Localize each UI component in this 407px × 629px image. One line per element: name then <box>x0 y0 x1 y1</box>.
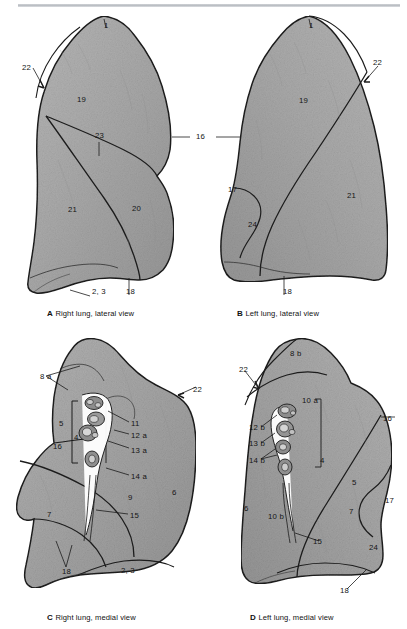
left-lung-lateral-body <box>221 16 388 282</box>
figure-a-label-19: 19 <box>77 96 86 104</box>
figure-c-label-11: 11 <box>131 420 140 428</box>
figure-c-label-9: 9 <box>128 494 133 502</box>
caption-c-text: Right lung, medial view <box>55 613 135 622</box>
caption-a-text: Right lung, lateral view <box>55 309 134 318</box>
figure-d-label-17: 17 <box>385 497 394 505</box>
figure-a-label-21: 21 <box>68 206 77 214</box>
figure-a-right-lung-lateral <box>0 10 200 305</box>
figure-d-label-18: 18 <box>340 587 349 595</box>
figure-c-label-13a: 13 a <box>131 447 147 455</box>
figure-c-label-5: 5 <box>59 420 64 428</box>
caption-b: BLeft lung, lateral view <box>237 309 319 318</box>
figure-a-label-20: 20 <box>132 205 141 213</box>
figure-d-label-24: 24 <box>369 544 378 552</box>
top-rule <box>18 4 400 7</box>
figure-c-label-2-3: 2, 3 <box>121 567 135 575</box>
caption-a: ARight lung, lateral view <box>47 309 134 318</box>
caption-b-letter: B <box>237 309 243 318</box>
caption-b-text: Left lung, lateral view <box>245 309 319 318</box>
figure-d-label-15: 15 <box>313 538 322 546</box>
figure-d-label-16: 16 <box>383 415 392 423</box>
figure-d-label-6: 6 <box>244 505 249 513</box>
figure-a-label-1: 1 <box>104 22 109 30</box>
figure-d-label-13b: 13 b <box>249 440 265 448</box>
figure-c-label-16: 16 <box>53 443 62 451</box>
figure-a-label-23: 23 <box>95 132 104 140</box>
figure-d-label-12b: 12 b <box>249 424 265 432</box>
figure-d-label-7: 7 <box>349 508 354 516</box>
caption-c: CRight lung, medial view <box>47 613 136 622</box>
figure-d-label-8b: 8 b <box>290 350 301 358</box>
caption-d: DLeft lung, medial view <box>250 613 334 622</box>
figure-d-label-10b: 10 b <box>268 513 284 521</box>
figure-c-label-15: 15 <box>130 512 139 520</box>
figure-c-label-14a: 14 a <box>131 473 147 481</box>
figure-b-label-22: 22 <box>373 59 382 67</box>
caption-a-letter: A <box>47 309 53 318</box>
figure-c-label-12a: 12 a <box>131 432 147 440</box>
figure-d-label-5: 5 <box>352 479 357 487</box>
right-lung-lateral-body <box>28 16 174 293</box>
figure-d-label-22: 22 <box>239 366 248 374</box>
figure-c-label-18: 18 <box>62 568 71 576</box>
figure-b-left-lung-lateral <box>210 10 407 305</box>
figure-c-label-4: 4 <box>74 434 79 442</box>
figure-b-label-1: 1 <box>309 22 314 30</box>
figure-c-label-8a: 8 a <box>40 373 51 381</box>
figure-b-label-19: 19 <box>299 97 308 105</box>
figure-d-left-lung-medial <box>215 335 407 605</box>
figure-a-label-2-3: 2, 3 <box>92 288 106 296</box>
figure-a-label-22: 22 <box>22 64 31 72</box>
caption-d-letter: D <box>250 613 256 622</box>
figure-b-label-17: 17 <box>228 186 237 194</box>
figure-c-label-7: 7 <box>47 511 52 519</box>
shared-label-16-leaders <box>170 125 242 149</box>
figure-b-label-24: 24 <box>248 221 257 229</box>
caption-c-letter: C <box>47 613 53 622</box>
figure-b-label-21: 21 <box>347 192 356 200</box>
figure-d-label-14b: 14 b <box>249 457 265 465</box>
figure-b-label-18: 18 <box>283 288 292 296</box>
figure-d-label-4: 4 <box>320 457 325 465</box>
figure-d-label-10a: 10 a <box>302 397 318 405</box>
figure-c-label-6: 6 <box>172 489 177 497</box>
figure-a-label-18: 18 <box>126 288 135 296</box>
caption-d-text: Left lung, medial view <box>258 613 333 622</box>
figure-c-label-22: 22 <box>193 386 202 394</box>
shared-label-16: 16 <box>196 133 205 141</box>
anatomy-plate: 1 22 19 23 21 20 2, 3 18 1 22 19 17 24 2… <box>0 0 407 629</box>
